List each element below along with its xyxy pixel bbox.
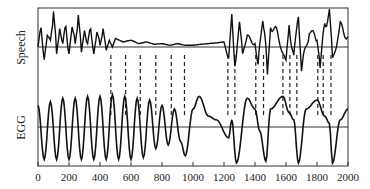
x-tick-label: 200: [61, 171, 78, 183]
speech-axis-label: Speech: [14, 23, 29, 73]
x-tick-label: 0: [35, 171, 41, 183]
x-axis-ticks: [38, 162, 348, 166]
egg-waveform: [38, 95, 348, 163]
x-tick-label: 1800: [306, 171, 328, 183]
x-tick-label: 1000: [182, 171, 204, 183]
pitch-marker-lines: [111, 55, 331, 118]
x-tick-label: 1400: [244, 171, 266, 183]
chart-canvas: [0, 0, 370, 189]
x-tick-label: 400: [92, 171, 109, 183]
x-tick-label: 1600: [275, 171, 297, 183]
x-tick-label: 800: [154, 171, 171, 183]
speech-waveform: [38, 9, 348, 74]
x-tick-label: 2000: [337, 171, 359, 183]
x-tick-label: 600: [123, 171, 140, 183]
x-tick-label: 1200: [213, 171, 235, 183]
egg-axis-label: EGG: [14, 103, 29, 153]
